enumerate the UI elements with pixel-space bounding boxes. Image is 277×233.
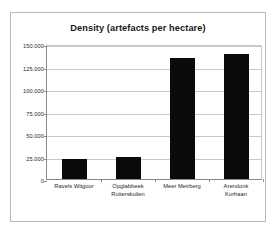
y-axis-tick-label: 0 xyxy=(41,178,44,184)
y-axis-tick-label: 75.000 xyxy=(26,111,44,117)
y-axis-tick-mark xyxy=(44,159,47,160)
y-axis-tick-mark xyxy=(44,114,47,115)
bar[interactable] xyxy=(170,58,195,180)
x-axis-tick-mark xyxy=(263,179,264,182)
y-axis-tick-mark xyxy=(44,69,47,70)
x-axis-category-label: Meer Meirberg xyxy=(163,183,201,191)
plot-area: 025.00050.00075.000100.000125.000150.000… xyxy=(46,45,262,180)
x-axis-category-label-line: Ruiterskuilen xyxy=(111,191,145,199)
bar[interactable] xyxy=(116,157,141,179)
x-axis-category-label-line: Ravels Witgoor xyxy=(54,183,93,191)
y-axis-tick-mark xyxy=(44,46,47,47)
y-axis-tick-mark xyxy=(44,91,47,92)
x-axis-tick-mark xyxy=(209,179,210,182)
y-axis-tick-mark xyxy=(44,136,47,137)
y-axis-tick-label: 100.000 xyxy=(23,88,44,94)
bar[interactable] xyxy=(224,54,249,179)
x-axis-category-label: Ravels Witgoor xyxy=(54,183,93,191)
x-axis-category-label: ArendonkKorhaan xyxy=(224,183,249,198)
bottom-caption xyxy=(0,226,277,233)
bar[interactable] xyxy=(62,159,87,179)
chart-figure: Density (artefacts per hectare) 025.0005… xyxy=(10,12,266,222)
x-axis-category-label-line: Opglabbeek xyxy=(111,183,145,191)
y-axis-tick-label: 125.000 xyxy=(23,66,44,72)
y-axis-tick-mark xyxy=(44,181,47,182)
y-axis-tick-label: 150.000 xyxy=(23,43,44,49)
x-axis-category-label-line: Korhaan xyxy=(224,191,249,199)
y-axis-tick-label: 50.000 xyxy=(26,133,44,139)
chart-title: Density (artefacts per hectare) xyxy=(11,23,265,33)
x-axis-tick-mark xyxy=(101,179,102,182)
y-axis-tick-label: 25.000 xyxy=(26,156,44,162)
x-axis-category-label-line: Arendonk xyxy=(224,183,249,191)
gridline xyxy=(47,46,261,47)
x-axis-category-label: OpglabbeekRuiterskuilen xyxy=(111,183,145,198)
x-axis-category-label-line: Meer Meirberg xyxy=(163,183,201,191)
x-axis-tick-mark xyxy=(155,179,156,182)
